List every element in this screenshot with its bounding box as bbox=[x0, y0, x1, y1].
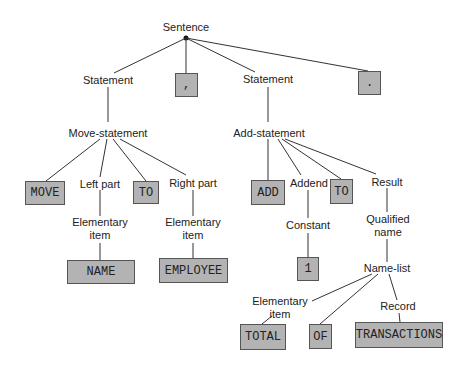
node-elementary-item-2-line2: item bbox=[183, 229, 204, 241]
node-right-part: Right part bbox=[169, 177, 217, 190]
node-add-statement: Add-statement bbox=[233, 127, 305, 140]
node-elementary-item-2-line1: Elementary bbox=[165, 216, 221, 228]
node-left-part: Left part bbox=[80, 178, 120, 191]
node-elementary-item-1: Elementary item bbox=[72, 216, 128, 242]
terminal-add: ADD bbox=[251, 180, 285, 205]
node-elementary-item-2: Elementary item bbox=[165, 216, 221, 242]
node-elementary-item-3-line1: Elementary bbox=[252, 295, 308, 307]
node-elementary-item-1-line2: item bbox=[90, 229, 111, 241]
node-elementary-item-1-line1: Elementary bbox=[72, 216, 128, 228]
terminal-total: TOTAL bbox=[240, 324, 286, 350]
node-addend: Addend bbox=[290, 177, 328, 190]
terminal-comma: , bbox=[175, 73, 198, 97]
node-move-statement: Move-statement bbox=[69, 127, 148, 140]
terminal-employee: EMPLOYEE bbox=[159, 258, 228, 283]
terminal-transactions: TRANSACTIONS bbox=[355, 322, 443, 348]
terminal-to-1: TO bbox=[133, 181, 159, 204]
node-statement-2: Statement bbox=[243, 73, 293, 86]
node-qualified-name: Qualified name bbox=[366, 213, 409, 239]
node-result: Result bbox=[371, 176, 402, 189]
node-statement-1: Statement bbox=[83, 74, 133, 87]
terminal-period: . bbox=[358, 71, 381, 95]
terminal-of: OF bbox=[309, 324, 332, 349]
terminal-move: MOVE bbox=[25, 181, 65, 205]
terminal-to-2: TO bbox=[330, 179, 353, 204]
node-sentence: Sentence bbox=[163, 21, 209, 34]
terminal-one: 1 bbox=[297, 257, 319, 281]
node-elementary-item-3: Elementary item bbox=[252, 295, 308, 321]
node-constant: Constant bbox=[286, 219, 330, 232]
node-qualified-name-line2: name bbox=[374, 226, 402, 238]
node-record: Record bbox=[380, 300, 415, 313]
parse-tree-diagram: Sentence Statement , Statement . Move-st… bbox=[0, 0, 466, 369]
node-qualified-name-line1: Qualified bbox=[366, 213, 409, 225]
node-elementary-item-3-line2: item bbox=[270, 308, 291, 320]
terminal-name: NAME bbox=[67, 260, 135, 284]
node-name-list: Name-list bbox=[364, 262, 410, 275]
